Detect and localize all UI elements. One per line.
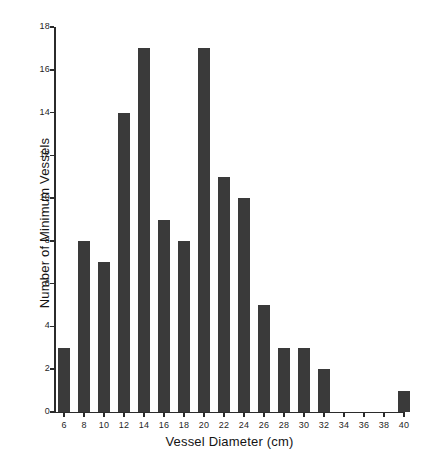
x-tick-mark (183, 413, 185, 417)
bar (178, 241, 190, 412)
x-tick-mark (243, 413, 245, 417)
x-tick-mark (283, 413, 285, 417)
plot-area: 024681012141618 681012141618202224262830… (0, 0, 435, 472)
bar (298, 348, 310, 412)
bar (58, 348, 70, 412)
x-tick-mark (163, 413, 165, 417)
bar (218, 177, 230, 412)
x-tick-mark (123, 413, 125, 417)
bar (78, 241, 90, 412)
x-tick-label: 40 (392, 420, 416, 430)
histogram-figure: 024681012141618 681012141618202224262830… (0, 0, 435, 472)
bar (118, 113, 130, 412)
bar (318, 369, 330, 412)
bar (258, 305, 270, 412)
bar (158, 220, 170, 413)
bar (238, 198, 250, 412)
x-tick-mark (343, 413, 345, 417)
x-tick-mark (363, 413, 365, 417)
x-tick-mark (383, 413, 385, 417)
x-tick-mark (103, 413, 105, 417)
x-tick-mark (223, 413, 225, 417)
bar (398, 391, 410, 412)
x-tick-mark (63, 413, 65, 417)
x-tick-mark (263, 413, 265, 417)
bar (198, 48, 210, 412)
x-tick-mark (203, 413, 205, 417)
x-tick-mark (83, 413, 85, 417)
x-tick-mark (303, 413, 305, 417)
x-tick-mark (403, 413, 405, 417)
x-axis-title: Vessel Diameter (cm) (54, 434, 405, 450)
bar-series (0, 0, 435, 472)
bar (278, 348, 290, 412)
x-tick-mark (323, 413, 325, 417)
y-axis-title: Number of Minimum Vessels (37, 93, 53, 353)
x-tick-mark (143, 413, 145, 417)
bar (98, 262, 110, 412)
bar (138, 48, 150, 412)
